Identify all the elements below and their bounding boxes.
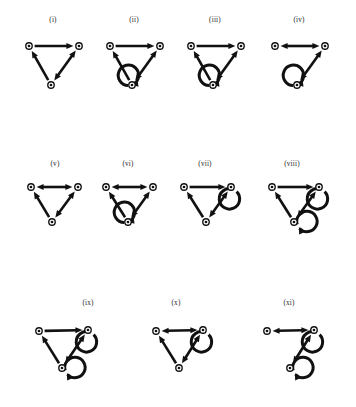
digraph-panel-vii: (vii)	[180, 160, 240, 226]
panel-label-iv: (iv)	[293, 16, 305, 24]
panel-label-iii: (iii)	[209, 16, 221, 24]
digraph-panel-x: (x)	[152, 299, 212, 372]
node-ii-bottom	[128, 81, 136, 89]
panel-label-x: (x)	[172, 299, 181, 307]
arrowhead-vi-to-left	[112, 184, 119, 190]
digraph-figure: (i)(ii)(iii)(iv)(v)(vi)(vii)(viii)(ix)(x…	[0, 0, 356, 407]
node-xi-left	[263, 327, 271, 335]
edge-iii-right-bottom	[219, 54, 235, 76]
node-xi-right	[310, 326, 318, 334]
node-x-left	[152, 327, 160, 335]
panel-label-viii: (viii)	[284, 160, 300, 168]
node-ii-left	[106, 42, 114, 50]
edge-i-right-bottom	[57, 54, 73, 76]
digraph-panel-i: (i)	[25, 16, 83, 89]
edge-x-left-right	[166, 330, 192, 331]
node-i-left	[25, 42, 33, 50]
node-v-right	[74, 183, 82, 191]
edge-x-bottom-left	[161, 340, 176, 363]
node-ix-left	[35, 327, 43, 335]
panel-label-ix: (ix)	[82, 299, 94, 307]
node-xi-bottom	[286, 364, 294, 372]
edge-ii-right-bottom	[138, 54, 154, 76]
edge-v-bottom-left	[36, 196, 49, 217]
digraph-panel-iv: (iv)	[271, 16, 329, 89]
node-viii-left	[268, 183, 276, 191]
edge-ix-left-right	[45, 330, 78, 331]
node-vi-right	[149, 183, 157, 191]
node-x-bottom	[175, 364, 183, 372]
arrowhead-v-to-right	[65, 184, 72, 190]
panel-label-v: (v)	[51, 160, 60, 168]
node-iv-left	[271, 42, 279, 50]
node-viii-right	[315, 183, 323, 191]
node-iii-bottom	[209, 81, 217, 89]
node-vi-left	[102, 183, 110, 191]
panel-label-i: (i)	[49, 16, 57, 24]
arrowhead-iv-to-left	[281, 43, 288, 49]
digraph-panel-viii: (viii)	[268, 160, 328, 235]
node-iv-right	[321, 42, 329, 50]
arrowhead-iv-to-right	[312, 43, 319, 49]
node-vi-bottom	[124, 218, 132, 226]
arrowhead-i-to-right	[66, 43, 73, 49]
node-ii-right	[156, 42, 164, 50]
edge-iv-right-bottom	[303, 54, 319, 76]
panel-label-ii: (ii)	[129, 16, 139, 24]
edge-ix-bottom-left	[44, 340, 59, 363]
node-i-right	[75, 42, 83, 50]
edge-xi-left-right	[277, 330, 303, 331]
node-ix-bottom	[58, 364, 66, 372]
panel-label-vi: (vi)	[122, 160, 134, 168]
panel-label-xi: (xi)	[283, 299, 295, 307]
node-iv-bottom	[293, 81, 301, 89]
node-v-bottom	[48, 218, 56, 226]
edge-i-bottom-left	[34, 55, 48, 80]
node-x-right	[199, 326, 207, 334]
node-vii-bottom	[202, 218, 210, 226]
node-i-bottom	[47, 81, 55, 89]
digraph-panel-vi: (vi)	[102, 160, 157, 226]
node-viii-bottom	[290, 218, 298, 226]
node-ix-right	[84, 326, 92, 334]
digraph-panel-ii: (ii)	[106, 16, 164, 89]
node-vii-right	[227, 183, 235, 191]
node-iii-left	[187, 42, 195, 50]
node-iii-right	[237, 42, 245, 50]
edge-vii-bottom-left	[190, 196, 203, 217]
digraph-panel-v: (v)	[27, 160, 82, 226]
digraph-panel-iii: (iii)	[187, 16, 245, 89]
arrowhead-xi-to-left	[273, 328, 280, 334]
arrowhead-x-to-left	[162, 328, 169, 334]
arrowhead-v-to-left	[37, 184, 44, 190]
digraph-panel-xi: (xi)	[263, 299, 323, 381]
arrowhead-iii-to-right	[228, 43, 235, 49]
node-vii-left	[180, 183, 188, 191]
panel-label-vii: (vii)	[198, 160, 212, 168]
digraph-panel-ix: (ix)	[35, 299, 97, 381]
node-v-left	[27, 183, 35, 191]
arrowhead-vi-to-right	[140, 184, 147, 190]
edge-viii-bottom-left	[278, 196, 291, 217]
arrowhead-ii-to-right	[147, 43, 154, 49]
edge-v-right-bottom	[58, 195, 72, 213]
